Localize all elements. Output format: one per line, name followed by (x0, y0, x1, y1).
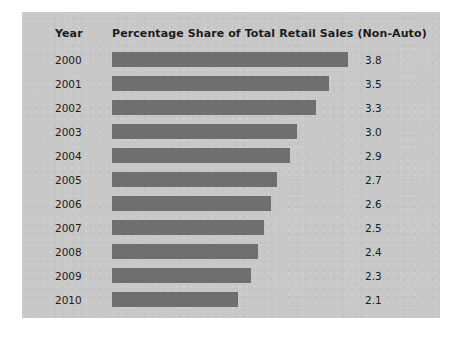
bar (112, 244, 258, 259)
bar-row: 20082.4 (22, 242, 440, 266)
bar (112, 148, 290, 163)
bar (112, 76, 329, 91)
column-header-year: Year (55, 27, 83, 41)
bar (112, 292, 238, 307)
bar-row: 20042.9 (22, 146, 440, 170)
bar-row: 20013.5 (22, 74, 440, 98)
bar-value-label: 2.5 (365, 221, 382, 235)
bar-track (112, 172, 362, 187)
bar-row-year-label: 2006 (55, 197, 101, 211)
bar-row-year-label: 2001 (55, 77, 101, 91)
bar-track (112, 196, 362, 211)
chart-figure: Year Percentage Share of Total Retail Sa… (0, 0, 464, 338)
bar-row-year-label: 2004 (55, 149, 101, 163)
bar-value-label: 3.3 (365, 101, 382, 115)
bar-value-label: 3.5 (365, 77, 382, 91)
bar (112, 124, 297, 139)
bar-row-year-label: 2000 (55, 53, 101, 67)
bar-track (112, 292, 362, 307)
bar (112, 220, 264, 235)
bar-row-year-label: 2010 (55, 293, 101, 307)
bar-value-label: 3.8 (365, 53, 382, 67)
bar-track (112, 76, 362, 91)
bar-value-label: 2.1 (365, 293, 382, 307)
bar-track (112, 124, 362, 139)
bar-track (112, 100, 362, 115)
bar-row-year-label: 2005 (55, 173, 101, 187)
bar-track (112, 244, 362, 259)
bar (112, 268, 251, 283)
bar-value-label: 2.7 (365, 173, 382, 187)
bar-row-year-label: 2002 (55, 101, 101, 115)
bar (112, 172, 277, 187)
column-header-metric: Percentage Share of Total Retail Sales (… (112, 27, 427, 41)
bar (112, 100, 316, 115)
bar (112, 196, 271, 211)
bar-row-year-label: 2003 (55, 125, 101, 139)
bar-track (112, 52, 362, 67)
bar-row: 20003.8 (22, 50, 440, 74)
bar-row: 20062.6 (22, 194, 440, 218)
bar-value-label: 2.4 (365, 245, 382, 259)
bar-row: 20033.0 (22, 122, 440, 146)
chart-panel: Year Percentage Share of Total Retail Sa… (22, 12, 440, 318)
table-header-row: Year Percentage Share of Total Retail Sa… (22, 26, 440, 44)
bar-row: 20023.3 (22, 98, 440, 122)
bar-rows-container: 20003.820013.520023.320033.020042.920052… (22, 50, 440, 314)
bar-track (112, 268, 362, 283)
bar-track (112, 220, 362, 235)
bar (112, 52, 348, 67)
bar-value-label: 2.6 (365, 197, 382, 211)
bar-row-year-label: 2007 (55, 221, 101, 235)
bar-value-label: 3.0 (365, 125, 382, 139)
bar-row-year-label: 2009 (55, 269, 101, 283)
bar-track (112, 148, 362, 163)
bar-row-year-label: 2008 (55, 245, 101, 259)
bar-row: 20072.5 (22, 218, 440, 242)
bar-row: 20102.1 (22, 290, 440, 314)
bar-value-label: 2.9 (365, 149, 382, 163)
bar-row: 20092.3 (22, 266, 440, 290)
bar-value-label: 2.3 (365, 269, 382, 283)
bar-row: 20052.7 (22, 170, 440, 194)
